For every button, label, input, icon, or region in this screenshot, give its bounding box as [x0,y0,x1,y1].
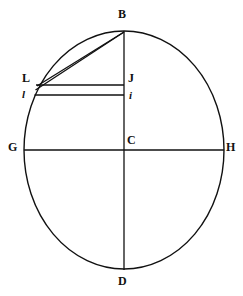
vertex-label-H: H [226,141,235,153]
vertex-label-D: D [118,275,127,287]
vertex-label-l-lowercase: l [22,88,25,100]
vertex-label-J: J [128,72,134,84]
vertex-label-i-lowercase: i [129,89,132,101]
vertex-label-L: L [22,72,30,84]
chord-B-to-L-lower [36,32,125,90]
vertex-label-B: B [118,8,126,20]
vertex-label-G: G [8,141,17,153]
ellipse-diagram-svg [0,0,243,296]
figure-canvas: B L l J i G C H D [0,0,243,296]
vertex-label-C: C [127,134,136,146]
